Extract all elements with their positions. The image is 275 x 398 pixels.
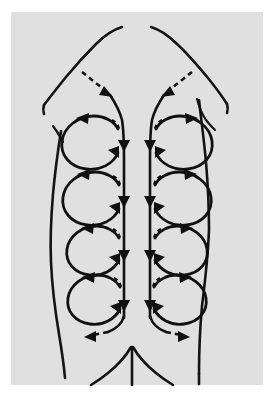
right-arm-contour <box>227 104 228 113</box>
left-arm-contour <box>43 105 44 114</box>
back-stroke-diagram <box>0 0 275 398</box>
figure-root: Back massage stroke direction diagram <box>0 0 275 398</box>
diagram-panel <box>11 12 263 385</box>
